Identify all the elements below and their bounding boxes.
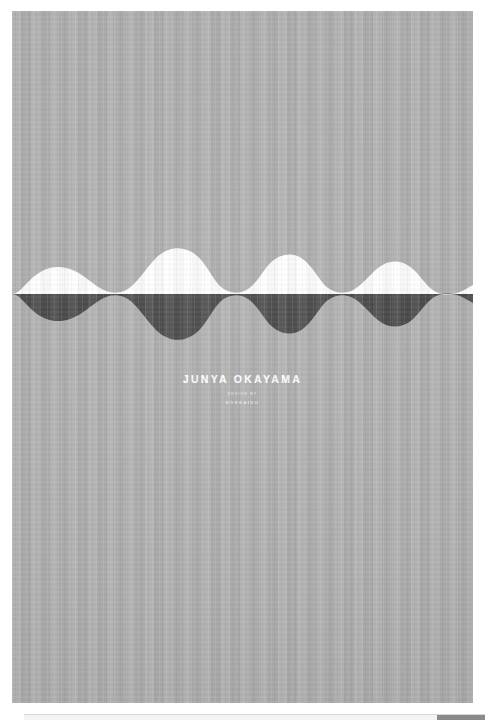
credits-arch-svg: HOKKAIDO · SOUND LANDSCAPE: [183, 359, 303, 372]
paper-texture-overlay: [12, 11, 473, 703]
poster-page: HOKKAIDO · SOUND LANDSCAPE JUNYA OKAYAMA…: [12, 11, 473, 703]
artist-name: JUNYA OKAYAMA: [12, 373, 473, 386]
credits-arch-line: HOKKAIDO · SOUND LANDSCAPE: [12, 359, 473, 372]
wave-lower-path: [12, 293, 473, 339]
wave-svg: [12, 236, 473, 351]
credits-subline-b: HOKKAIDO: [12, 399, 473, 407]
credits-subline-a: DESIGN BY: [12, 390, 473, 398]
horizontal-scrollbar-track[interactable]: [24, 714, 485, 720]
horizontal-scrollbar-thumb[interactable]: [437, 715, 485, 720]
abstract-wave-graphic: [12, 236, 473, 351]
credits-block: HOKKAIDO · SOUND LANDSCAPE JUNYA OKAYAMA…: [12, 359, 473, 407]
wave-upper-path: [12, 248, 473, 294]
page-vignette-overlay: [12, 11, 473, 703]
document-viewer: HOKKAIDO · SOUND LANDSCAPE JUNYA OKAYAMA…: [0, 0, 485, 722]
